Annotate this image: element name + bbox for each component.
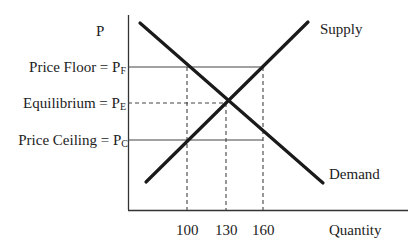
price-ceiling-subscript: C: [121, 138, 128, 149]
equilibrium-label: Equilibrium = PE: [23, 96, 126, 112]
equilibrium-text: Equilibrium = P: [23, 95, 120, 111]
x-tick-160: 160: [252, 223, 275, 238]
demand-label: Demand: [329, 167, 380, 182]
supply-demand-diagram: [0, 0, 419, 250]
supply-label: Supply: [320, 22, 363, 37]
price-floor-subscript: F: [120, 65, 126, 76]
price-ceiling-label: Price Ceiling = PC: [18, 133, 128, 149]
price-ceiling-text: Price Ceiling = P: [18, 132, 121, 148]
x-tick-130: 130: [215, 223, 238, 238]
equilibrium-subscript: E: [120, 101, 126, 112]
x-axis-label: Quantity: [329, 223, 382, 238]
y-axis-label: P: [96, 24, 104, 39]
price-floor-text: Price Floor = P: [29, 59, 120, 75]
x-tick-100: 100: [176, 223, 199, 238]
price-floor-label: Price Floor = PF: [29, 60, 126, 76]
supply-curve: [146, 22, 308, 182]
